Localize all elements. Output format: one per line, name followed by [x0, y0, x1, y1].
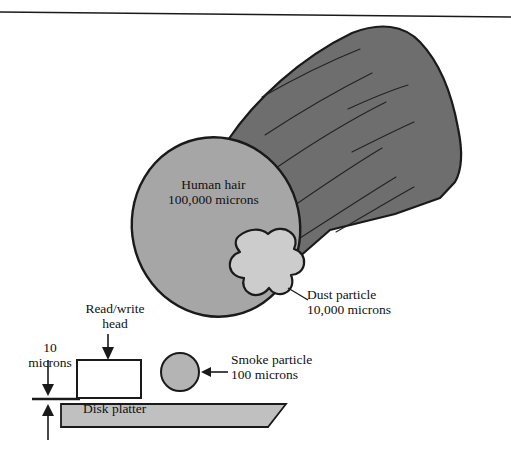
dust-particle-label: Dust particle 10,000 microns: [307, 287, 391, 317]
gap-dimension-group: [32, 360, 80, 440]
top-horizontal-rule: [0, 12, 511, 17]
gap-dimension-label-line2: microns: [10, 355, 90, 370]
smoke-particle-group: [161, 353, 228, 391]
figure-illustration: [0, 0, 511, 452]
dust-particle-label-line1: Dust particle: [307, 287, 391, 302]
gap-arrow-down-head: [42, 384, 54, 396]
human-hair-label: Human hair 100,000 microns: [168, 177, 259, 207]
read-write-head-label-line2: head: [67, 316, 163, 331]
smoke-particle-label: Smoke particle 100 microns: [231, 352, 312, 382]
read-write-head-arrow-head: [102, 347, 114, 360]
figure-canvas: Human hair 100,000 microns Dust particle…: [0, 0, 511, 452]
smoke-particle-label-line2: 100 microns: [231, 367, 312, 382]
gap-dimension-label-line1: 10: [10, 340, 90, 355]
read-write-head-label: Read/write head: [67, 301, 163, 331]
smoke-particle-circle: [161, 353, 199, 391]
dust-particle-label-line2: 10,000 microns: [307, 302, 391, 317]
human-hair-label-line2: 100,000 microns: [168, 192, 259, 207]
smoke-particle-arrow-head: [201, 367, 211, 377]
human-hair-label-line1: Human hair: [168, 177, 259, 192]
disk-platter-label-line1: Disk platter: [83, 401, 146, 416]
gap-dimension-label: 10 microns: [10, 340, 90, 370]
smoke-particle-label-line1: Smoke particle: [231, 352, 312, 367]
read-write-head-label-line1: Read/write: [67, 301, 163, 316]
disk-platter-label: Disk platter: [83, 401, 146, 416]
dust-particle-leader-line: [288, 288, 308, 300]
